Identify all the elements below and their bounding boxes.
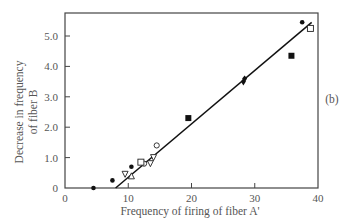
chart: 01020304001.02.03.04.05.0 Frequency of f… xyxy=(0,0,346,224)
plot-area: 01020304001.02.03.04.05.0 xyxy=(44,13,324,204)
x-tick-label: 40 xyxy=(313,192,325,204)
data-point-open-square xyxy=(138,159,144,165)
data-point-open-circle xyxy=(154,143,159,148)
x-tick-label: 30 xyxy=(249,192,261,204)
y-tick-label: 3.0 xyxy=(44,91,58,103)
data-point-filled-circle xyxy=(129,164,134,169)
y-tick-label: 0 xyxy=(53,182,59,194)
data-point-open-triangle-down xyxy=(147,161,153,167)
data-point-open-triangle-down xyxy=(122,171,128,177)
data-point-filled-circle xyxy=(300,20,305,25)
x-axis-label: Frequency of firing of fiber A' xyxy=(120,205,259,218)
y-tick-label: 2.0 xyxy=(44,121,58,133)
y-tick-label: 1.0 xyxy=(44,152,58,164)
y-axis-label-line1: Decrease in frequency xyxy=(13,60,26,163)
data-point-filled-square xyxy=(288,53,294,59)
x-tick-label: 0 xyxy=(62,192,68,204)
panel-label: (b) xyxy=(325,93,339,106)
y-tick-label: 4.0 xyxy=(44,60,58,72)
y-tick-label: 5.0 xyxy=(44,30,58,42)
data-point-filled-circle xyxy=(110,178,115,183)
data-point-filled-square xyxy=(185,115,191,121)
x-tick-label: 10 xyxy=(123,192,135,204)
data-point-open-square xyxy=(307,25,313,31)
y-axis-label-line2: of fiber B xyxy=(27,89,39,134)
axes-frame xyxy=(65,13,318,188)
x-tick-label: 20 xyxy=(186,192,198,204)
data-point-filled-circle xyxy=(91,186,96,191)
